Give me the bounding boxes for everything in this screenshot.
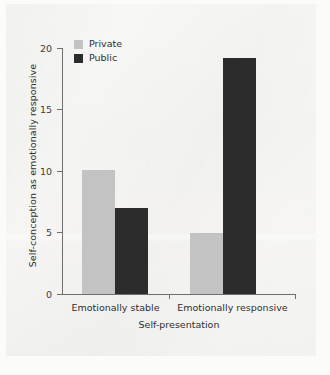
- y-tick-5: [57, 232, 62, 233]
- y-tick-20: [57, 48, 62, 49]
- bar-public-emotionally-responsive: [223, 58, 256, 294]
- bar-private-emotionally-stable: [82, 170, 115, 294]
- y-tick-label-0: 0: [12, 290, 52, 300]
- x-tick-divider: [169, 294, 170, 299]
- x-axis-title: Self-presentation: [62, 319, 296, 330]
- y-tick-15: [57, 109, 62, 110]
- chart-legend: Private Public: [74, 38, 122, 66]
- bar-private-emotionally-responsive: [190, 233, 223, 295]
- figure-root: 0 5 10 15 20 Self-conception as emotiona…: [0, 0, 330, 375]
- y-tick-10: [57, 171, 62, 172]
- x-category-label-emotionally-stable: Emotionally stable: [62, 302, 169, 313]
- x-axis-line: [62, 294, 296, 295]
- bar-public-emotionally-stable: [115, 208, 148, 294]
- y-axis-line: [62, 48, 63, 295]
- x-tick-end: [295, 294, 296, 299]
- legend-swatch-public-icon: [74, 54, 83, 63]
- legend-swatch-private-icon: [74, 40, 83, 49]
- bar-chart-plot: 0 5 10 15 20 Self-conception as emotiona…: [0, 0, 330, 375]
- legend-label-private: Private: [89, 39, 122, 49]
- y-tick-label-20: 20: [12, 44, 52, 54]
- x-category-label-emotionally-responsive: Emotionally responsive: [169, 302, 296, 313]
- legend-label-public: Public: [89, 53, 117, 63]
- legend-item-private: Private: [74, 38, 122, 50]
- legend-item-public: Public: [74, 52, 122, 64]
- y-axis-title: Self-conception as emotionally responsiv…: [27, 61, 38, 271]
